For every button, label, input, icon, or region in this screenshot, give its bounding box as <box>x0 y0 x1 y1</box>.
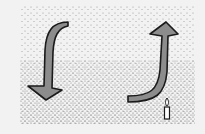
convection-diagram <box>0 0 205 134</box>
candle-icon <box>165 98 170 119</box>
